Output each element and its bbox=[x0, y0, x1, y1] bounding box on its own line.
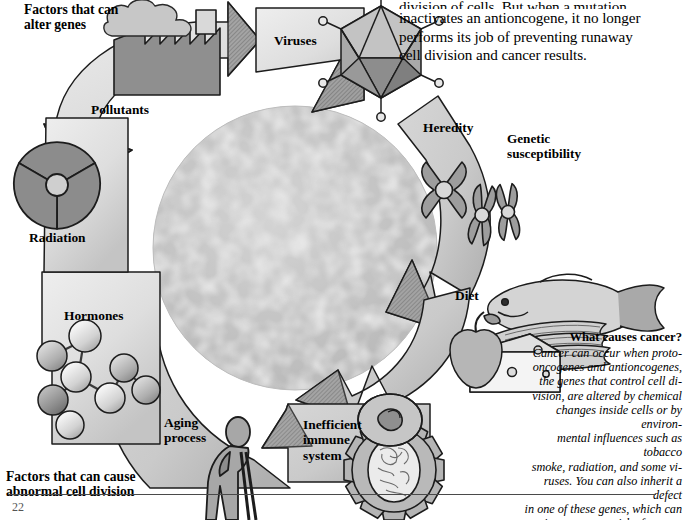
caption-line-5: mental influences such as tobacco bbox=[557, 431, 682, 459]
segment-label-pollutants: Pollutants bbox=[91, 102, 149, 117]
caption-title: What causes cancer? bbox=[516, 330, 684, 345]
caption-line-8: in one of these genes, which can bbox=[525, 502, 682, 516]
top-paragraph: division of cells. But when a mutation i… bbox=[399, 0, 684, 65]
segment-label-diet: Diet bbox=[455, 288, 479, 303]
page-footer-rule bbox=[8, 494, 656, 495]
elderly-person-icon bbox=[206, 417, 256, 520]
top-paragraph-line-3: cell division and cancer results. bbox=[399, 46, 587, 63]
segment-label-hormones: Hormones bbox=[64, 308, 124, 323]
segment-label-aging-process: Agingprocess bbox=[164, 415, 206, 446]
annotation-genetic-susceptibility: Geneticsusceptibility bbox=[507, 132, 581, 162]
top-paragraph-clipped-line: division of cells. But when a mutation bbox=[399, 0, 684, 9]
central-cell-mass bbox=[150, 103, 442, 395]
segment-label-immune-system: Inefficientimmunesystem bbox=[303, 417, 362, 463]
caption-line-6: smoke, radiation, and some vi- bbox=[532, 460, 682, 474]
figure-canvas: division of cells. But when a mutation i… bbox=[0, 0, 684, 520]
page-number: 22 bbox=[12, 500, 24, 513]
top-paragraph-line-1: inactivates an antioncogene, it no longe… bbox=[399, 9, 640, 26]
top-paragraph-line-2: performs its job of preventing runaway bbox=[399, 28, 633, 45]
caption-line-4: changes inside cells or by environ- bbox=[556, 403, 682, 431]
caption-line-0: Cancer can occur when proto- bbox=[533, 346, 682, 360]
caption-line-3: vision, are altered by chemical bbox=[532, 389, 682, 403]
caption-line-2: the genes that control cell di- bbox=[539, 374, 682, 388]
annotation-alter-genes: Factors that canalter genes bbox=[24, 2, 118, 32]
caption-line-1: oncogenes and antioncogenes, bbox=[533, 360, 682, 374]
segment-label-viruses: Viruses bbox=[274, 33, 317, 48]
caption-line-9: increase your risk of cancer. bbox=[544, 516, 682, 520]
segment-label-heredity: Heredity bbox=[423, 120, 473, 135]
caption-line-7: ruses. You can also inherit a defect bbox=[544, 474, 682, 502]
segment-label-radiation: Radiation bbox=[29, 230, 86, 245]
caption-box: What causes cancer? Cancer can occur whe… bbox=[516, 330, 684, 520]
